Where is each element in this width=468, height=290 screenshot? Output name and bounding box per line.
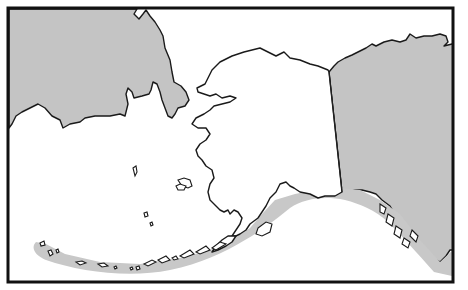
range-map <box>0 0 468 290</box>
canada-landmass <box>329 34 453 262</box>
pribilof-island-1 <box>144 212 148 217</box>
alaska-landmass <box>192 48 342 236</box>
pribilof-island-2 <box>150 222 153 226</box>
russia-landmass <box>9 9 189 128</box>
st-matthew-island <box>133 166 137 176</box>
